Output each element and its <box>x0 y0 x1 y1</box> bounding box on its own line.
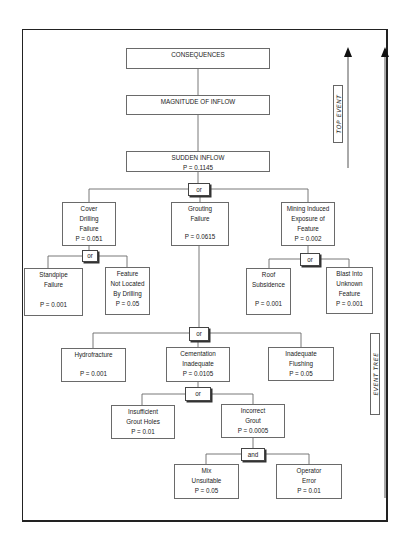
node-probability: P = 0.0005 <box>238 426 269 436</box>
top-event-label: TOP EVENT <box>333 85 343 143</box>
event-tree-label: EVENT TREE <box>370 333 380 415</box>
gate-label: or <box>307 256 313 263</box>
node-line: Grouting <box>188 204 212 214</box>
top-event-arrow-icon <box>344 47 352 57</box>
node-line: By Drilling <box>113 289 141 299</box>
node-probability: P = 0.001 <box>40 300 67 310</box>
node-cover-drilling-failure: Cover Drilling Failure P = 0.051 <box>62 202 116 246</box>
node-line: Unsuitable <box>192 476 222 486</box>
node-line: Failure <box>44 280 63 290</box>
gate-label: or <box>196 186 202 193</box>
node-cementation-inadequate: Cementation Inadequate P = 0.0105 <box>166 347 230 382</box>
node-probability: P = 0.001 <box>80 369 107 379</box>
node-probability: P = 0.01 <box>297 486 321 496</box>
gate-or-grouting: or <box>189 327 209 341</box>
node-line: Error <box>302 476 316 486</box>
node-line: Blast Into <box>336 269 362 279</box>
node-line: Not Located <box>111 279 145 289</box>
event-tree-arrow-icon <box>381 47 389 57</box>
node-line: Incorrect <box>241 406 266 416</box>
node-line: Feature <box>339 289 361 299</box>
node-line: Exposure of <box>291 214 325 224</box>
event-tree-text: EVENT TREE <box>372 352 379 395</box>
node-line: Failure <box>79 224 98 234</box>
node-line: Standpipe <box>39 270 67 280</box>
node-line: Mining Induced <box>287 204 330 214</box>
node-line: Failure <box>190 214 209 224</box>
node-probability: P = 0.05 <box>289 369 313 379</box>
node-line: Grout Holes <box>126 417 160 427</box>
gate-or-mining: or <box>300 253 320 266</box>
gate-or-cementation: or <box>185 387 211 401</box>
node-blast-into-unknown-feature: Blast Into Unknown Feature P = 0.001 <box>326 267 373 314</box>
node-inadequate-flushing: Inadequate Flushing P = 0.05 <box>268 347 334 381</box>
node-feature-not-located: Feature Not Located By Drilling P = 0.05 <box>105 267 150 315</box>
node-line: Hydrofracture <box>74 350 112 360</box>
node-probability: P = 0.1145 <box>183 163 213 173</box>
node-probability: P = 0.051 <box>75 234 102 244</box>
node-operator-error: Operator Error P = 0.01 <box>276 464 342 499</box>
node-line: Feature <box>297 224 319 234</box>
node-magnitude-of-inflow: MAGNITUDE OF INFLOW <box>126 95 270 115</box>
node-grouting-failure: Grouting Failure P = 0.0615 <box>171 202 229 246</box>
node-line: Drilling <box>79 214 98 224</box>
node-line: Inadequate <box>285 349 317 359</box>
node-title: CONSEQUENCES <box>171 50 225 60</box>
node-line: Insufficient <box>128 407 158 417</box>
gate-label: or <box>196 330 202 337</box>
node-probability: P = 0.001 <box>255 299 282 309</box>
node-line: Mix <box>202 466 212 476</box>
node-roof-subsidence: Roof Subsidence P = 0.001 <box>246 268 291 315</box>
gate-label: or <box>195 390 201 397</box>
node-hydrofracture: Hydrofracture P = 0.001 <box>61 348 126 382</box>
node-line: Operator <box>297 466 322 476</box>
gate-or-cover: or <box>82 250 98 262</box>
node-sudden-inflow: SUDDEN INFLOW P = 0.1145 <box>126 151 270 172</box>
top-event-text: TOP EVENT <box>335 94 342 133</box>
node-line: Grout <box>245 416 261 426</box>
node-probability: P = 0.01 <box>131 427 155 437</box>
node-mix-unsuitable: Mix Unsuitable P = 0.05 <box>174 464 239 499</box>
node-insufficient-grout-holes: Insufficient Grout Holes P = 0.01 <box>111 405 175 439</box>
diagram-canvas: CONSEQUENCES MAGNITUDE OF INFLOW SUDDEN … <box>0 0 411 549</box>
node-line: Feature <box>117 269 139 279</box>
node-line: Roof <box>262 270 275 280</box>
node-line: Cover <box>81 204 98 214</box>
node-line: Unknown <box>336 279 362 289</box>
node-standpipe-failure: Standpipe Failure P = 0.001 <box>24 268 83 316</box>
node-line: Subsidence <box>252 280 285 290</box>
node-probability: P = 0.05 <box>116 299 140 309</box>
gate-label: or <box>87 252 93 259</box>
node-probability: P = 0.05 <box>195 486 219 496</box>
gate-and-incorrect-grout: and <box>241 448 265 461</box>
node-title: SUDDEN INFLOW <box>172 153 225 163</box>
gate-label: and <box>248 451 259 458</box>
node-probability: P = 0.0615 <box>185 232 216 242</box>
node-probability: P = 0.001 <box>336 299 363 309</box>
node-probability: P = 0.0105 <box>183 369 214 379</box>
node-probability: P = 0.002 <box>294 234 321 244</box>
node-line: Inadequate <box>182 359 214 369</box>
gate-or-top: or <box>188 183 210 196</box>
node-mining-induced-exposure: Mining Induced Exposure of Feature P = 0… <box>281 202 335 246</box>
node-title: MAGNITUDE OF INFLOW <box>161 97 236 107</box>
node-incorrect-grout: Incorrect Grout P = 0.0005 <box>221 404 285 438</box>
node-consequences: CONSEQUENCES <box>126 48 270 69</box>
node-line: Flushing <box>289 359 313 369</box>
node-line: Cementation <box>180 349 216 359</box>
